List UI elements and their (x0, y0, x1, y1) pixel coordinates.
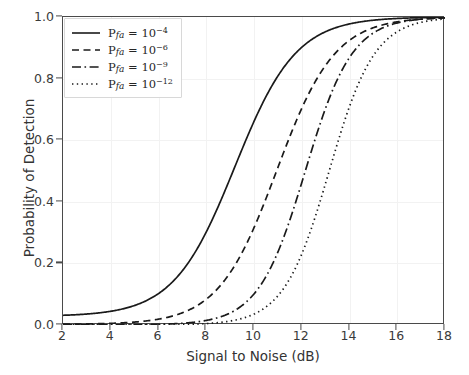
x-tick-label: 2 (58, 328, 66, 343)
legend-item-P_fa_1e-4: Pfa = 10−4 (71, 24, 173, 41)
x-tick-label: 6 (154, 328, 162, 343)
legend-line-sample (71, 27, 101, 39)
x-tick-label: 8 (201, 328, 209, 343)
legend-item-P_fa_1e-9: Pfa = 10−9 (71, 58, 173, 75)
legend-label: Pfa = 10−4 (108, 26, 168, 40)
x-tick-label: 14 (341, 328, 357, 343)
y-axis-title: Probability of Detection (21, 63, 37, 293)
x-axis-title: Signal to Noise (dB) (62, 348, 444, 364)
x-tick-label: 4 (106, 328, 114, 343)
x-tick-label: 18 (436, 328, 452, 343)
y-tick-label: 1.0 (8, 9, 54, 24)
x-tick-label: 12 (293, 328, 309, 343)
legend-label: Pfa = 10−12 (108, 77, 173, 91)
legend-item-P_fa_1e-6: Pfa = 10−6 (71, 41, 173, 58)
legend: Pfa = 10−4Pfa = 10−6Pfa = 10−9Pfa = 10−1… (64, 18, 182, 98)
legend-label: Pfa = 10−9 (108, 60, 168, 74)
legend-label: Pfa = 10−6 (108, 43, 168, 57)
legend-line-sample (71, 44, 101, 56)
x-tick-label: 16 (388, 328, 404, 343)
y-tick-label: 0.0 (8, 317, 54, 332)
legend-line-sample (71, 78, 101, 90)
legend-line-sample (71, 61, 101, 73)
chart-figure: 0.00.20.40.60.81.0 24681012141618 Signal… (0, 0, 469, 375)
x-tick-label: 10 (245, 328, 261, 343)
legend-item-P_fa_1e-12: Pfa = 10−12 (71, 75, 173, 92)
